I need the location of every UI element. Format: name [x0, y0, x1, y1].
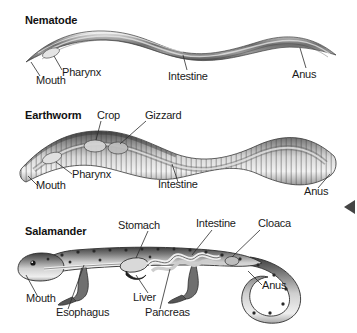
organism-title-salamander: Salamander: [25, 225, 86, 237]
label-salamander-intestine: Intestine: [196, 217, 236, 229]
label-salamander-esophagus: Esophagus: [56, 306, 109, 318]
label-nematode-pharynx: Pharynx: [62, 66, 101, 78]
label-salamander-pancreas: Pancreas: [145, 306, 190, 318]
label-salamander-liver: Liver: [133, 291, 156, 303]
panel-salamander: Salamander Stomach Intestine Cloaca Anus…: [0, 205, 357, 333]
label-salamander-stomach: Stomach: [118, 219, 160, 231]
label-salamander-anus: Anus: [262, 279, 286, 291]
label-earthworm-gizzard: Gizzard: [145, 109, 182, 121]
digestive-systems-figure: Nematode Mouth Pharynx Intestine Anus: [0, 0, 357, 333]
organism-title-earthworm: Earthworm: [25, 109, 82, 121]
panel-earthworm: Earthworm Crop Gizzard Pharynx Mouth Int…: [0, 100, 357, 205]
label-earthworm-mouth: Mouth: [36, 179, 66, 191]
panel-nematode: Nematode Mouth Pharynx Intestine Anus: [0, 0, 357, 105]
label-earthworm-pharynx: Pharynx: [72, 168, 111, 180]
label-salamander-mouth: Mouth: [26, 292, 56, 304]
label-earthworm-intestine: Intestine: [158, 178, 198, 190]
label-salamander-cloaca: Cloaca: [258, 217, 291, 229]
label-nematode-anus: Anus: [292, 68, 316, 80]
label-nematode-intestine: Intestine: [168, 70, 208, 82]
label-earthworm-anus: Anus: [304, 185, 328, 197]
label-earthworm-crop: Crop: [97, 109, 120, 121]
organism-title-nematode: Nematode: [25, 14, 77, 26]
